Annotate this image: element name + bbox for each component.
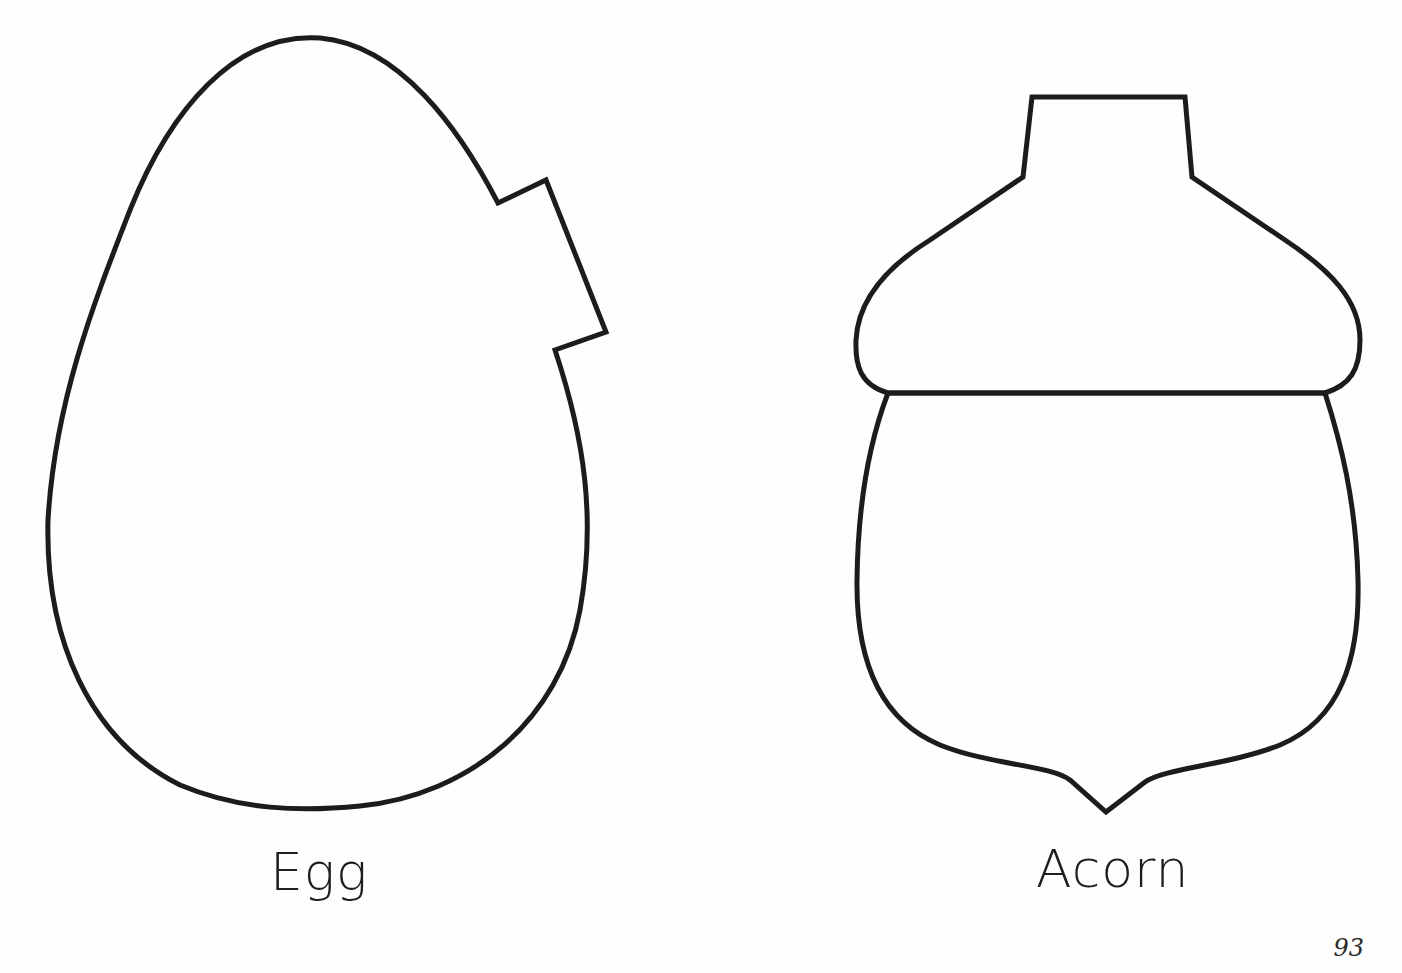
egg-outline (48, 38, 606, 809)
acorn-nut-outline (857, 393, 1358, 812)
acorn-label: Acorn (1036, 843, 1189, 895)
egg-label: Egg (270, 846, 368, 898)
page-number: 93 (1333, 934, 1364, 962)
acorn-cap-outline (856, 97, 1360, 393)
page: Egg Acorn 93 (0, 0, 1402, 973)
template-shapes (0, 0, 1402, 973)
